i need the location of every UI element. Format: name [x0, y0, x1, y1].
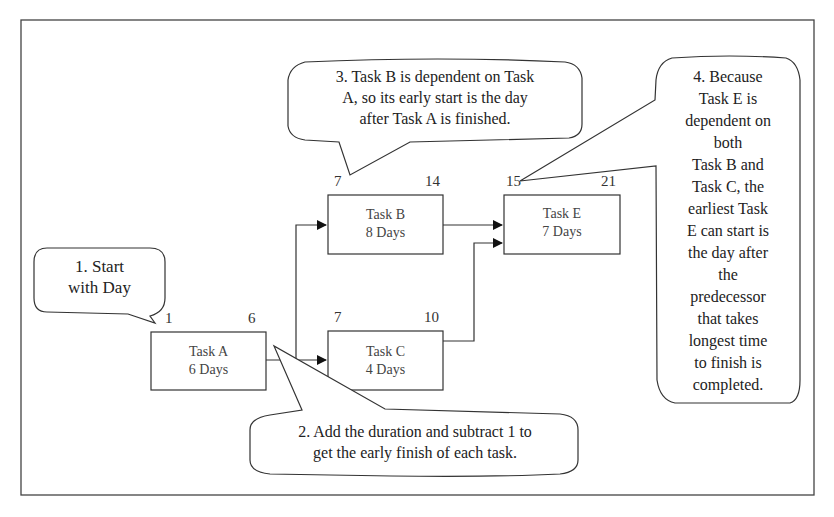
task-a-node: Task A 6 Days: [151, 343, 266, 379]
callout-3-line: A, so its early start is the day: [288, 87, 582, 108]
callout-3-text: 3. Task B is dependent on Task A, so its…: [288, 66, 582, 129]
callout-3-line: after Task A is finished.: [288, 108, 582, 129]
callout-4-line: longest time: [660, 330, 796, 352]
callout-1-text: 1. Start with Day: [34, 256, 165, 298]
task-b-node: Task B 8 Days: [328, 206, 443, 242]
task-c-node: Task C 4 Days: [328, 343, 443, 379]
callout-4-line: dependent on: [660, 110, 796, 132]
callout-2-line: get the early finish of each task.: [252, 442, 578, 463]
callout-4-line: Task C, the: [660, 176, 796, 198]
callout-4-line: E can start is: [660, 220, 796, 242]
callout-4-line: earliest Task: [660, 198, 796, 220]
callout-4-line: the day after: [660, 242, 796, 264]
task-a-early-start: 1: [165, 310, 173, 327]
callout-2-line: 2. Add the duration and subtract 1 to: [252, 421, 578, 442]
task-e-early-finish: 21: [601, 173, 616, 190]
task-e-duration: 7 Days: [504, 223, 620, 241]
callout-3-line: 3. Task B is dependent on Task: [288, 66, 582, 87]
callout-4-line: completed.: [660, 374, 796, 396]
callout-4-line: Task E is: [660, 88, 796, 110]
task-b-early-finish: 14: [425, 173, 440, 190]
task-e-early-start: 15: [506, 173, 521, 190]
callout-4-text: 4. Because Task E is dependent on both T…: [660, 66, 796, 396]
callout-4-line: both: [660, 132, 796, 154]
connector-c-to-e: [443, 243, 502, 341]
task-a-duration: 6 Days: [151, 361, 266, 379]
connector-a-to-b: [296, 225, 326, 360]
callout-4-line: to finish is: [660, 352, 796, 374]
callout-4-line: that takes: [660, 308, 796, 330]
task-c-early-finish: 10: [424, 309, 439, 326]
task-a-name: Task A: [151, 343, 266, 361]
task-b-duration: 8 Days: [328, 224, 443, 242]
task-b-name: Task B: [328, 206, 443, 224]
task-c-name: Task C: [328, 343, 443, 361]
task-e-node: Task E 7 Days: [504, 205, 620, 241]
callout-4-line: predecessor: [660, 286, 796, 308]
task-b-early-start: 7: [334, 173, 342, 190]
task-a-early-finish: 6: [248, 310, 256, 327]
callout-1-line: 1. Start: [34, 256, 165, 277]
task-c-duration: 4 Days: [328, 361, 443, 379]
task-c-early-start: 7: [334, 309, 342, 326]
callout-2-text: 2. Add the duration and subtract 1 to ge…: [252, 421, 578, 463]
callout-4-line: Task B and: [660, 154, 796, 176]
callout-4-line: the: [660, 264, 796, 286]
task-e-name: Task E: [504, 205, 620, 223]
callout-1-line: with Day: [34, 277, 165, 298]
callout-4-line: 4. Because: [660, 66, 796, 88]
